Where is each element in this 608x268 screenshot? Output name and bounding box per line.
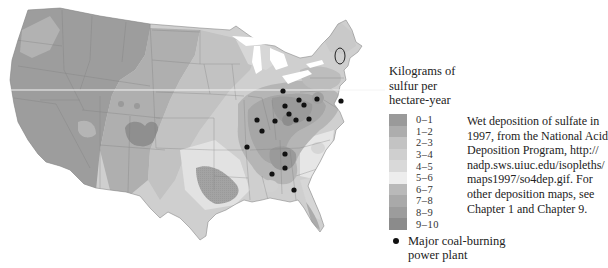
power-plant-marker <box>282 151 287 156</box>
power-plant-marker <box>282 103 287 108</box>
power-plant-dot-icon <box>393 238 399 244</box>
legend-row: 2–3 <box>389 137 439 149</box>
caption-line: nadp.sws.uiuc.edu/isopleths/ <box>467 158 607 173</box>
legend-row: 1–2 <box>389 126 439 138</box>
power-plant-marker <box>280 88 285 93</box>
legend-swatch <box>389 207 407 219</box>
power-plant-marker <box>259 128 264 133</box>
power-plant-marker <box>314 96 319 101</box>
legend-row: 8–9 <box>389 207 439 219</box>
caption-line: 1997, from the National Acid <box>467 129 607 144</box>
legend-swatch <box>389 160 407 172</box>
caption-line: other deposition maps, see <box>467 187 607 202</box>
legend-row: 7–8 <box>389 195 439 207</box>
legend-range: 7–8 <box>416 195 433 206</box>
power-plant-label-line: Major coal-burning <box>408 234 506 248</box>
power-plant-marker <box>254 117 259 122</box>
power-plant-marker <box>286 111 291 116</box>
legend-range: 2–3 <box>416 137 433 148</box>
caption-line: Deposition Program, http:// <box>467 143 607 158</box>
figure-caption: Wet deposition of sulfate in 1997, from … <box>467 114 607 216</box>
power-plant-legend: Major coal-burning power plant <box>389 234 506 262</box>
power-plant-marker <box>272 118 277 123</box>
legend-swatch <box>389 218 407 230</box>
legend-swatch <box>389 137 407 149</box>
legend-row: 5–6 <box>389 172 439 184</box>
deposition-contours <box>0 0 385 268</box>
legend-range: 9–10 <box>416 219 439 230</box>
legend-swatch <box>389 184 407 196</box>
legend-range: 8–9 <box>416 207 433 218</box>
legend-row: 3–4 <box>389 149 439 161</box>
legend-title-line: hectare-year <box>389 93 479 108</box>
power-plant-marker <box>269 171 274 176</box>
legend-row: 0–1 <box>389 114 439 126</box>
legend-range: 3–4 <box>416 149 433 160</box>
legend-range: 5–6 <box>416 172 433 183</box>
caption-line: Chapter 1 and Chapter 9. <box>467 202 607 217</box>
legend-swatch <box>389 172 407 184</box>
legend-title-line: Kilograms of <box>389 64 479 79</box>
legend-range: 0–1 <box>416 114 433 125</box>
power-plant-marker <box>293 117 298 122</box>
legend-range: 4–5 <box>416 161 433 172</box>
us-sulfate-deposition-map <box>0 0 385 268</box>
legend-title: Kilograms of sulfur per hectare-year <box>389 64 479 108</box>
legend-row: 4–5 <box>389 160 439 172</box>
power-plant-label: Major coal-burning power plant <box>408 234 506 262</box>
legend-swatch <box>389 195 407 207</box>
power-plant-marker <box>301 102 306 107</box>
caption-line: Wet deposition of sulfate in <box>467 114 607 129</box>
power-plant-marker <box>338 98 343 103</box>
legend-range: 6–7 <box>416 184 433 195</box>
power-plant-label-line: power plant <box>408 248 506 262</box>
legend-row: 9–10 <box>389 218 439 230</box>
power-plant-marker <box>296 97 301 102</box>
power-plant-marker <box>306 116 311 121</box>
legend-range: 1–2 <box>416 126 433 137</box>
legend-swatch <box>389 149 407 161</box>
legend-swatch <box>389 114 407 126</box>
power-plant-marker <box>282 165 287 170</box>
legend-title-line: sulfur per <box>389 79 479 94</box>
legend: 0–1 1–2 2–3 3–4 4–5 5–6 6–7 7–8 8–9 9–10 <box>389 114 439 230</box>
power-plant-marker <box>244 144 249 149</box>
power-plant-marker <box>291 187 296 192</box>
legend-swatch <box>389 126 407 138</box>
legend-row: 6–7 <box>389 184 439 196</box>
caption-line: maps1997/so4dep.gif. For <box>467 172 607 187</box>
